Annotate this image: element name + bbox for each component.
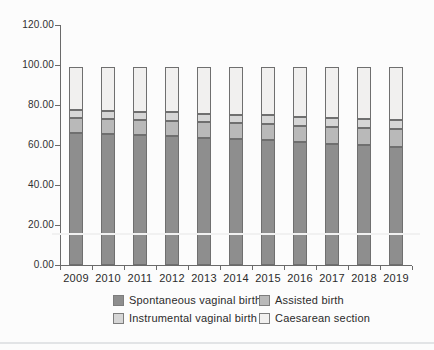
y-axis-tick bbox=[55, 185, 60, 186]
x-tick-label: 2010 bbox=[92, 272, 124, 284]
x-tick-label: 2011 bbox=[124, 272, 156, 284]
x-tick-label: 2013 bbox=[188, 272, 220, 284]
x-tick-label: 2014 bbox=[220, 272, 252, 284]
legend-item-spontaneous-vaginal-birth: Spontaneous vaginal birth bbox=[113, 294, 261, 306]
bar-segment bbox=[389, 67, 403, 120]
bar-segment bbox=[197, 114, 211, 122]
y-tick-label: 60.00 bbox=[0, 139, 54, 150]
legend-swatch-assisted-birth bbox=[259, 295, 270, 306]
bar-segment bbox=[325, 67, 339, 118]
bar-segment bbox=[133, 67, 147, 112]
bar-segment bbox=[101, 67, 115, 111]
y-tick-label: 80.00 bbox=[0, 99, 54, 110]
bar-segment bbox=[293, 117, 307, 126]
bar-segment bbox=[69, 133, 83, 265]
bar-segment bbox=[325, 118, 339, 127]
x-tick-label: 2012 bbox=[156, 272, 188, 284]
bar-segment bbox=[229, 115, 243, 123]
bar-segment bbox=[325, 144, 339, 265]
bar-segment bbox=[357, 145, 371, 265]
legend-label: Caesarean section bbox=[275, 312, 370, 324]
y-axis-tick bbox=[55, 225, 60, 226]
y-axis-line bbox=[60, 25, 61, 266]
x-axis-tick bbox=[92, 266, 93, 270]
scan-artifact-line bbox=[52, 233, 420, 235]
bar-segment bbox=[325, 127, 339, 144]
x-tick-label: 2018 bbox=[348, 272, 380, 284]
bar-segment bbox=[69, 110, 83, 118]
x-axis-tick bbox=[124, 266, 125, 270]
x-axis-tick bbox=[316, 266, 317, 270]
legend-item-caesarean-section: Caesarean section bbox=[259, 312, 370, 324]
x-axis-line bbox=[60, 265, 412, 266]
legend-label: Instrumental vaginal birth bbox=[129, 312, 257, 324]
x-axis-tick bbox=[220, 266, 221, 270]
bar-segment bbox=[69, 67, 83, 110]
y-tick-label: 40.00 bbox=[0, 179, 54, 190]
x-axis-tick bbox=[60, 266, 61, 270]
y-axis-tick bbox=[55, 25, 60, 26]
legend-swatch-instrumental-vaginal-birth bbox=[113, 313, 124, 324]
x-tick-label: 2016 bbox=[284, 272, 316, 284]
legend-swatch-spontaneous-vaginal-birth bbox=[113, 295, 124, 306]
x-tick-label: 2009 bbox=[60, 272, 92, 284]
y-axis-tick bbox=[55, 105, 60, 106]
y-tick-label: 120.00 bbox=[0, 19, 54, 30]
bar-segment bbox=[133, 120, 147, 135]
x-axis-tick bbox=[284, 266, 285, 270]
bar-segment bbox=[229, 139, 243, 265]
legend-label: Assisted birth bbox=[275, 294, 344, 306]
bar-segment bbox=[357, 128, 371, 145]
y-axis-tick bbox=[55, 65, 60, 66]
bar-segment bbox=[389, 120, 403, 129]
bar-segment bbox=[261, 124, 275, 140]
bar-segment bbox=[357, 67, 371, 119]
bar-segment bbox=[165, 121, 179, 136]
bar-segment bbox=[165, 136, 179, 265]
x-tick-label: 2019 bbox=[380, 272, 412, 284]
stacked-bar-chart: 0.0020.0040.0060.0080.00100.00120.00 200… bbox=[0, 0, 434, 290]
bar-segment bbox=[261, 140, 275, 265]
bar-segment bbox=[229, 123, 243, 139]
x-axis-tick bbox=[156, 266, 157, 270]
bar-segment bbox=[165, 112, 179, 120]
legend-item-instrumental-vaginal-birth: Instrumental vaginal birth bbox=[113, 312, 257, 324]
x-axis-tick bbox=[188, 266, 189, 270]
bar-segment bbox=[197, 138, 211, 265]
x-tick-label: 2015 bbox=[252, 272, 284, 284]
x-axis-tick bbox=[252, 266, 253, 270]
legend-swatch-caesarean-section bbox=[259, 313, 270, 324]
bar-segment bbox=[229, 67, 243, 115]
x-tick-label: 2017 bbox=[316, 272, 348, 284]
bar-segment bbox=[357, 119, 371, 128]
x-axis-tick bbox=[412, 266, 413, 270]
x-axis-tick bbox=[380, 266, 381, 270]
bar-segment bbox=[101, 111, 115, 119]
bar-segment bbox=[133, 135, 147, 265]
x-axis-tick bbox=[348, 266, 349, 270]
bar-segment bbox=[165, 67, 179, 112]
y-tick-label: 20.00 bbox=[0, 219, 54, 230]
y-tick-label: 0.00 bbox=[0, 259, 54, 270]
bar-segment bbox=[261, 115, 275, 124]
bar-segment bbox=[69, 118, 83, 133]
bar-segment bbox=[197, 67, 211, 114]
bar-segment bbox=[293, 142, 307, 265]
bar-segment bbox=[133, 112, 147, 120]
bar-segment bbox=[101, 119, 115, 134]
legend-item-assisted-birth: Assisted birth bbox=[259, 294, 344, 306]
bar-segment bbox=[389, 147, 403, 265]
bar-segment bbox=[101, 134, 115, 265]
bar-segment bbox=[293, 126, 307, 143]
bar-segment bbox=[293, 67, 307, 117]
legend-label: Spontaneous vaginal birth bbox=[129, 294, 261, 306]
bar-segment bbox=[389, 129, 403, 147]
y-axis-tick bbox=[55, 145, 60, 146]
y-tick-label: 100.00 bbox=[0, 59, 54, 70]
bar-segment bbox=[261, 67, 275, 115]
figure-birth-mode-stacked-chart: 0.0020.0040.0060.0080.00100.00120.00 200… bbox=[0, 0, 434, 350]
bar-segment bbox=[197, 122, 211, 138]
page-divider-line bbox=[0, 342, 434, 344]
